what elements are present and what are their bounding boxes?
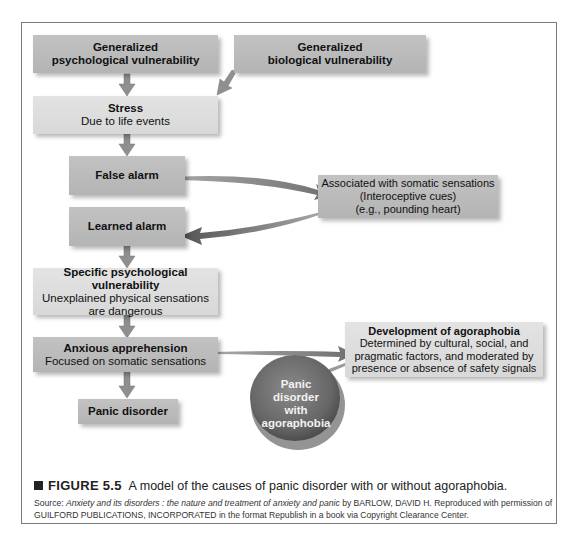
node-line: Determined by cultural, social, and — [360, 337, 529, 350]
node-title: Panic disorder — [88, 405, 168, 418]
node-subtitle: Due to life events — [81, 115, 170, 128]
node-generalized-psychological-vulnerability: Generalized psychological vulnerability — [33, 35, 218, 73]
node-development-of-agoraphobia: Development of agoraphobia Determined by… — [345, 322, 543, 377]
figure-source: Source: Anxiety and its disorders : the … — [34, 497, 554, 521]
node-line: disorder — [255, 391, 337, 404]
node-title: Anxious apprehension — [64, 342, 188, 355]
node-title: Stress — [108, 102, 143, 115]
node-line: are dangerous — [88, 305, 162, 318]
figure-caption: FIGURE 5.5 A model of the causes of pani… — [34, 478, 507, 493]
node-specific-psychological-vulnerability: Specific psychological vulnerability Une… — [33, 268, 218, 315]
source-prefix: Source: — [34, 498, 66, 508]
node-line: pragmatic factors, and moderated by — [354, 350, 533, 363]
node-panic-disorder: Panic disorder — [78, 399, 178, 424]
node-somatic-sensations: Associated with somatic sensations (Inte… — [318, 175, 498, 218]
node-title: False alarm — [95, 169, 158, 182]
node-line: (e.g., pounding heart) — [355, 203, 460, 216]
square-bullet-icon — [34, 481, 43, 490]
node-line: (Interoceptive cues) — [360, 190, 457, 203]
source-title: Anxiety and its disorders : the nature a… — [66, 498, 340, 508]
node-title: Generalized — [93, 41, 158, 54]
node-line: with — [255, 404, 337, 417]
node-line: Unexplained physical sensations — [42, 292, 209, 305]
node-stress: Stress Due to life events — [33, 96, 218, 134]
node-subtitle: biological vulnerability — [268, 54, 393, 67]
node-panic-disorder-with-agoraphobia: Panic disorder with agoraphobia — [255, 378, 337, 430]
node-line: Associated with somatic sensations — [321, 177, 494, 190]
node-title: Learned alarm — [88, 220, 167, 233]
node-false-alarm: False alarm — [69, 156, 185, 195]
node-line: presence or absence of safety signals — [352, 362, 537, 375]
node-line: agoraphobia — [255, 417, 337, 430]
node-anxious-apprehension: Anxious apprehension Focused on somatic … — [33, 337, 218, 372]
figure-label: FIGURE 5.5 — [48, 478, 122, 493]
node-subtitle: psychological vulnerability — [52, 54, 200, 67]
node-line: Panic — [255, 378, 337, 391]
node-learned-alarm: Learned alarm — [69, 207, 185, 246]
node-title: Development of agoraphobia — [368, 325, 520, 338]
node-title: Specific psychological vulnerability — [33, 266, 218, 292]
node-generalized-biological-vulnerability: Generalized biological vulnerability — [234, 35, 426, 73]
caption-text: A model of the causes of panic disorder … — [129, 479, 508, 493]
node-subtitle: Focused on somatic sensations — [45, 355, 206, 368]
node-title: Generalized — [297, 41, 362, 54]
